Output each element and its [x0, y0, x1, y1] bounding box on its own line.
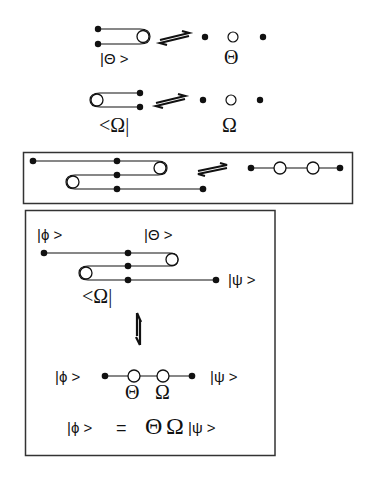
dot-icon	[257, 97, 263, 103]
vertical-equivalence-arrow-icon	[136, 313, 141, 345]
box1-equivalence-arrow-icon	[198, 163, 227, 176]
row1-equivalence-arrow-icon	[160, 31, 189, 45]
box2-phi-label: |ϕ >	[37, 226, 62, 243]
box2-theta-label: |Θ >	[144, 226, 173, 243]
open-circle-icon	[226, 95, 236, 105]
dot-icon	[114, 158, 121, 165]
dot-icon	[95, 26, 101, 32]
open-circle-icon	[228, 32, 238, 42]
box1-composite-diagram	[30, 158, 207, 193]
box2-composite-diagram	[41, 250, 220, 284]
dot-icon	[137, 104, 143, 110]
equation-omega: Ω	[166, 413, 184, 439]
diagram-canvas: |Θ > Θ <Ω| Ω	[0, 0, 371, 484]
row1-ket-label: |Θ >	[100, 50, 129, 67]
equation-rhs: |ψ >	[188, 419, 216, 436]
row2-omega-symbol: Ω	[222, 114, 237, 136]
equation-theta: Θ	[145, 413, 162, 439]
row2-equivalence-arrow-icon	[156, 94, 185, 108]
dot-icon	[102, 373, 109, 380]
row1-theta-symbol: Θ	[224, 46, 238, 68]
row2-bra-label: <Ω|	[99, 114, 129, 137]
open-circle-icon	[274, 162, 286, 174]
bottom-theta-symbol: Θ	[125, 381, 139, 403]
dot-icon	[125, 277, 132, 284]
box1-chain-diagram	[248, 162, 344, 174]
open-circle-icon	[67, 176, 79, 188]
open-circle-icon	[154, 162, 166, 174]
bottom-omega-symbol: Ω	[155, 381, 170, 403]
open-circle-icon	[307, 162, 319, 174]
box2-psi-label: |ψ >	[228, 271, 256, 288]
dot-icon	[114, 172, 121, 179]
dot-icon	[137, 90, 143, 96]
open-circle-icon	[91, 94, 103, 106]
equation: |ϕ > = Θ Ω |ψ >	[67, 413, 216, 439]
open-circle-icon	[166, 254, 178, 266]
dot-icon	[248, 165, 255, 172]
dot-icon	[202, 34, 208, 40]
row2-bra-diagram	[90, 90, 143, 110]
equation-lhs: |ϕ >	[67, 419, 92, 436]
dot-icon	[41, 250, 48, 257]
bottom-chain-diagram	[102, 370, 196, 382]
dot-icon	[213, 277, 220, 284]
dot-icon	[260, 34, 266, 40]
dot-icon	[114, 186, 121, 193]
dot-icon	[337, 165, 344, 172]
box2-omega-label: <Ω|	[82, 285, 112, 308]
open-circle-icon	[137, 31, 149, 43]
dot-icon	[125, 250, 132, 257]
open-circle-icon	[80, 267, 92, 279]
bottom-psi-label: |ψ >	[210, 368, 238, 385]
dot-icon	[30, 158, 37, 165]
dot-icon	[200, 186, 207, 193]
bottom-phi-label: |ϕ >	[55, 368, 80, 385]
equation-equals: =	[116, 418, 127, 438]
dot-icon	[95, 41, 101, 47]
dot-icon	[125, 263, 132, 270]
dot-icon	[189, 373, 196, 380]
row1-ket-diagram	[95, 26, 150, 47]
dot-icon	[200, 97, 206, 103]
